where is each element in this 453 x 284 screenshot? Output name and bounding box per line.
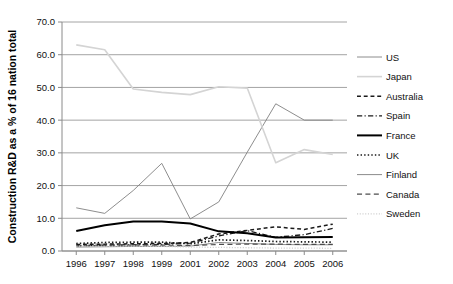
y-tick-label: 40.0 <box>37 115 56 126</box>
x-tick-label: 2003 <box>237 258 258 269</box>
legend-label-spain: Spain <box>386 110 410 121</box>
y-tick-label: 20.0 <box>37 180 56 191</box>
y-axis-title: Construction R&D as a % of 16 nation tot… <box>6 30 18 244</box>
x-tick-label: 2004 <box>265 258 286 269</box>
gridlines <box>62 22 347 251</box>
x-tick-label: 2001 <box>180 258 201 269</box>
series-line-france <box>76 222 333 238</box>
x-tick-label: 1999 <box>151 258 172 269</box>
y-axis-ticks: 0.010.020.030.040.050.060.070.0 <box>37 16 63 256</box>
y-tick-label: 70.0 <box>37 16 56 27</box>
legend-label-us: US <box>386 52 399 63</box>
x-axis-ticks: 1996199719981999200120022003200420052006 <box>66 251 344 269</box>
x-tick-label: 1996 <box>66 258 87 269</box>
series-line-us <box>76 104 333 219</box>
x-tick-label: 1998 <box>123 258 144 269</box>
series-line-japan <box>76 45 333 163</box>
y-tick-label: 30.0 <box>37 147 56 158</box>
legend-label-sweden: Sweden <box>386 208 420 219</box>
legend-label-uk: UK <box>386 150 400 161</box>
x-tick-label: 2005 <box>294 258 315 269</box>
series-line-uk <box>76 240 333 244</box>
line-chart: 0.010.020.030.040.050.060.070.0199619971… <box>0 0 453 284</box>
legend-label-france: France <box>386 130 416 141</box>
legend-label-canada: Canada <box>386 189 420 200</box>
legend: USJapanAustraliaSpainFranceUKFinlandCana… <box>357 52 424 220</box>
legend-label-japan: Japan <box>386 71 412 82</box>
chart-canvas: 0.010.020.030.040.050.060.070.0199619971… <box>0 0 453 284</box>
y-tick-label: 0.0 <box>42 245 55 256</box>
series-line-sweden <box>76 246 333 248</box>
y-tick-label: 10.0 <box>37 213 56 224</box>
y-tick-label: 50.0 <box>37 82 56 93</box>
x-tick-label: 2006 <box>322 258 343 269</box>
y-tick-label: 60.0 <box>37 49 56 60</box>
legend-label-australia: Australia <box>386 91 424 102</box>
legend-label-finland: Finland <box>386 169 417 180</box>
x-tick-label: 1997 <box>94 258 115 269</box>
x-tick-label: 2002 <box>208 258 229 269</box>
